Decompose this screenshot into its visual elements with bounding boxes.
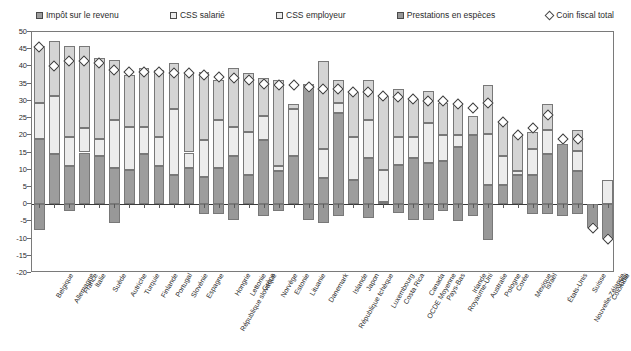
bar-group[interactable] [363,32,374,271]
x-axis-tick-mark [129,204,130,208]
x-axis-label: Danemark [327,272,350,304]
y-axis-tick-label: 10 [19,164,27,173]
bar-group[interactable] [184,32,195,271]
bar-group[interactable] [109,32,120,271]
bar-segment-employer-ssc [378,96,389,170]
bar-segment-employee-ssc [79,128,90,152]
bar-segment-employee-ssc [228,127,239,156]
bar-group[interactable] [348,32,359,271]
bar-group[interactable] [587,32,598,271]
legend-label: CSS employeur [286,11,346,20]
bar-segment-employer-ssc [273,80,284,166]
legend-item-total-tax-wedge: Coin fiscal total [546,11,614,20]
bar-segment-employee-ssc [602,180,613,204]
x-axis-tick-mark [593,204,594,208]
bar-segment-income-tax [139,154,150,204]
bar-segment-employee-ssc [34,103,45,139]
bar-group[interactable] [483,32,494,271]
bar-group[interactable] [273,32,284,271]
x-axis-tick-mark [39,204,40,208]
bar-segment-income-tax [572,171,583,204]
bar-group[interactable] [468,32,479,271]
bar-group[interactable] [557,32,568,271]
x-axis-tick-mark [578,204,579,208]
bar-group[interactable] [154,32,165,271]
bar-group[interactable] [423,32,434,271]
bar-group[interactable] [318,32,329,271]
bar-group[interactable] [94,32,105,271]
y-axis-tick-label: -20 [16,268,27,277]
x-axis-tick-mark [548,204,549,208]
square-swatch-icon [36,12,43,19]
x-axis-tick-mark [428,204,429,208]
y-axis-tick-label: 35 [19,78,27,87]
bar-group[interactable] [408,32,419,271]
bar-segment-income-tax [79,153,90,205]
bar-group[interactable] [303,32,314,271]
bar-group[interactable] [228,32,239,271]
legend-label: Coin fiscal total [556,11,614,20]
bar-segment-income-tax [273,171,284,204]
bar-segment-income-tax [184,168,195,204]
bar-group[interactable] [438,32,449,271]
x-axis-tick-mark [608,204,609,208]
bar-group[interactable] [258,32,269,271]
legend-label: CSS salarié [180,11,225,20]
x-axis-tick-mark [204,204,205,208]
x-axis-tick-mark [383,204,384,208]
bar-segment-income-tax [363,158,374,204]
bar-segment-employer-ssc [154,70,165,137]
square-swatch-icon [397,12,404,19]
y-axis: 50454035302520151050-5-10-15-20 [0,31,31,272]
bar-segment-cash-benefits [483,204,494,240]
bar-group[interactable] [139,32,150,271]
bar-group[interactable] [572,32,583,271]
bar-segment-income-tax [213,168,224,204]
diamond-marker-icon [288,80,299,91]
legend-item-employer-ssc: CSS employeur [276,11,346,20]
x-axis-tick-mark [353,204,354,208]
x-axis-tick-mark [189,204,190,208]
bar-group[interactable] [542,32,553,271]
bar-group[interactable] [602,32,613,271]
bar-segment-employee-ssc [49,96,60,155]
bar-segment-employee-ssc [527,149,538,175]
bar-group[interactable] [333,32,344,271]
y-axis-tick-label: 20 [19,130,27,139]
x-axis-tick-mark [323,204,324,208]
bar-segment-employee-ssc [378,170,389,203]
bar-group[interactable] [124,32,135,271]
bar-segment-employer-ssc [483,85,494,133]
bar-segment-income-tax [258,140,269,204]
x-axis-tick-mark [249,204,250,208]
bar-group[interactable] [288,32,299,271]
bar-segment-income-tax [483,185,494,204]
x-axis-tick-mark [488,204,489,208]
bar-group[interactable] [512,32,523,271]
bar-group[interactable] [34,32,45,271]
bar-group[interactable] [498,32,509,271]
bar-segment-employee-ssc [94,139,105,156]
x-axis-tick-mark [294,204,295,208]
bar-segment-employee-ssc [109,120,120,168]
diamond-marker-icon [545,10,555,20]
bar-group[interactable] [393,32,404,271]
bar-segment-employer-ssc [94,58,105,139]
bar-segment-employee-ssc [258,116,269,140]
bar-segment-income-tax [34,139,45,204]
bar-group[interactable] [64,32,75,271]
bar-group[interactable] [378,32,389,271]
bar-group[interactable] [199,32,210,271]
x-axis-label: Suède [111,272,128,294]
bar-segment-employee-ssc [333,103,344,113]
bar-group[interactable] [453,32,464,271]
bar-segment-income-tax [243,175,254,204]
x-axis-tick-mark [518,204,519,208]
bar-group[interactable] [527,32,538,271]
x-axis-tick-mark [69,204,70,208]
bar-group[interactable] [49,32,60,271]
bar-group[interactable] [213,32,224,271]
bar-group[interactable] [243,32,254,271]
bar-group[interactable] [79,32,90,271]
bar-group[interactable] [169,32,180,271]
